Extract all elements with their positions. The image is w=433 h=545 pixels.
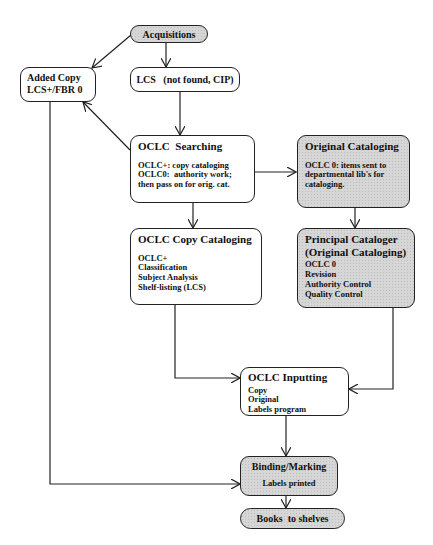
node-original-cataloging-title: Original Cataloging (305, 140, 402, 153)
node-added-copy-line1: Added Copy (27, 72, 89, 84)
node-oclc-searching-line3: then pass on for orig. cat. (138, 180, 247, 190)
node-binding-line1: Labels printed (245, 479, 333, 489)
node-copy-cataloging-title: OCLC Copy Cataloging (138, 233, 254, 246)
edge-principal-inputting (349, 308, 393, 389)
node-oclc-searching: OCLC Searching OCLC+: copy cataloging OC… (130, 135, 255, 203)
node-original-cataloging: Original Cataloging OCLC 0: items sent t… (297, 135, 410, 208)
node-inputting-title: OCLC Inputting (248, 371, 341, 384)
node-acquisitions-title: Acquisitions (137, 29, 201, 41)
node-principal-line4: Quality Control (305, 290, 407, 300)
node-binding-title: Binding/Marking (245, 461, 333, 473)
node-oclc-searching-title: OCLC Searching (138, 140, 247, 153)
node-inputting-line3: Labels program (248, 405, 341, 415)
node-acquisitions: Acquisitions (130, 25, 208, 43)
node-books-to-shelves: Books to shelves (240, 508, 345, 529)
node-lcs: LCS (not found, CIP) (130, 67, 240, 92)
node-principal-cataloger: Principal Cataloger (Original Cataloging… (297, 228, 415, 308)
node-added-copy: Added Copy LCS+/FBR 0 (20, 67, 96, 102)
node-books-title: Books to shelves (245, 513, 340, 525)
edge-copy-cataloging-inputting (175, 305, 240, 378)
node-added-copy-line2: LCS+/FBR 0 (27, 84, 89, 96)
node-oclc-inputting: OCLC Inputting Copy Original Labels prog… (240, 367, 349, 416)
node-copy-cataloging-line4: Shelf-listing (LCS) (138, 283, 254, 293)
node-lcs-title: LCS (not found, CIP) (135, 74, 235, 86)
node-original-cataloging-line3: cataloging. (305, 180, 402, 190)
node-principal-title: Principal Cataloger (305, 233, 407, 246)
edge-oclc-searching-added-copy (83, 102, 130, 150)
node-oclc-copy-cataloging: OCLC Copy Cataloging OCLC+ Classificatio… (130, 228, 262, 305)
edge-acquisitions-added-copy (92, 35, 131, 68)
node-principal-title2: (Original Cataloging) (305, 246, 407, 259)
node-binding-marking: Binding/Marking Labels printed (240, 456, 338, 496)
